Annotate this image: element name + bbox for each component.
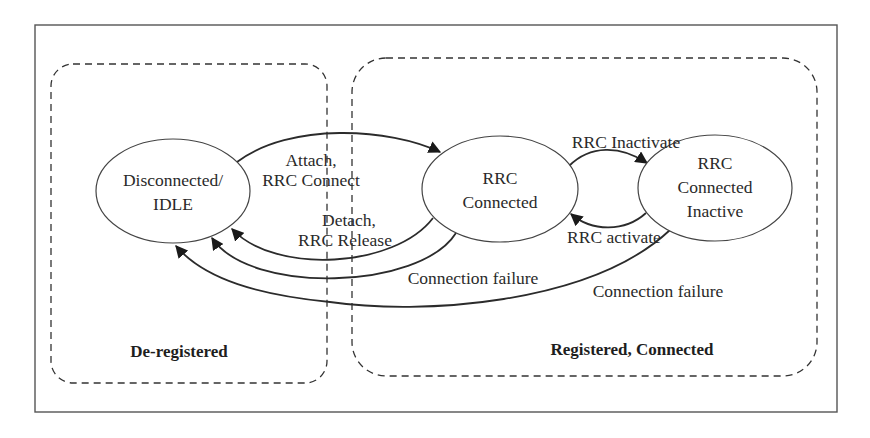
transition-rrc-activate (571, 213, 646, 227)
state-disconnected-idle: Disconnected/ IDLE (96, 139, 250, 243)
transition-label-rrc-inactivate: RRC Inactivate (572, 132, 681, 152)
state-label-line: Disconnected/ (123, 170, 223, 190)
state-label-line: IDLE (153, 194, 193, 214)
transition-label-attach: RRC Connect (262, 170, 360, 190)
transition-label-detach: RRC Release (298, 230, 392, 250)
state-rrc-connected: RRC Connected (422, 136, 578, 242)
transition-label-rrc-activate: RRC activate (567, 227, 661, 247)
region-label-deregistered: De-registered (130, 342, 228, 361)
state-label-line: Connected (463, 192, 538, 212)
region-label-registered-connected: Registered, Connected (550, 340, 714, 359)
transition-attach (237, 133, 440, 162)
state-diagram: Disconnected/ IDLE RRC Connected RRC Con… (0, 0, 870, 438)
state-label-line: Inactive (687, 201, 744, 221)
state-label-line: RRC (482, 168, 517, 188)
transition-label-attach: Attach, (285, 150, 336, 170)
transition-label-detach: Detach, (322, 210, 376, 230)
transition-label-connection-failure-inactive: Connection failure (593, 281, 724, 301)
transition-label-connection-failure-connected: Connection failure (408, 268, 539, 288)
state-label-line: Connected (678, 177, 753, 197)
transition-rrc-inactivate (569, 150, 647, 166)
state-label-line: RRC (697, 153, 732, 173)
